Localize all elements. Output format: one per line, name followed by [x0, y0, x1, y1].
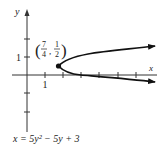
equation-label: x = 5y² − 5y + 3 — [12, 133, 80, 144]
parabola-chart: y x 1 1 ( 7 4 , 1 2 ) x = 5y² − 5y + 3 — [0, 0, 163, 149]
svg-text:1: 1 — [55, 40, 59, 49]
vertex-point — [56, 63, 61, 68]
svg-text:4: 4 — [42, 50, 46, 59]
svg-text:7: 7 — [42, 40, 46, 49]
y-axis-arrow-icon — [25, 9, 30, 16]
svg-text:(: ( — [35, 41, 41, 60]
parabola-upper-branch — [59, 46, 156, 66]
y-tick-label-1: 1 — [16, 52, 21, 63]
svg-text:2: 2 — [55, 50, 59, 59]
svg-text:,: , — [49, 46, 51, 56]
svg-text:): ) — [61, 41, 67, 60]
y-axis-label: y — [14, 6, 20, 17]
x-tick-label-1: 1 — [43, 79, 48, 90]
vertex-label: ( 7 4 , 1 2 ) — [35, 40, 67, 60]
parabola-lower-branch — [59, 66, 156, 82]
x-axis-label: x — [148, 63, 153, 73]
